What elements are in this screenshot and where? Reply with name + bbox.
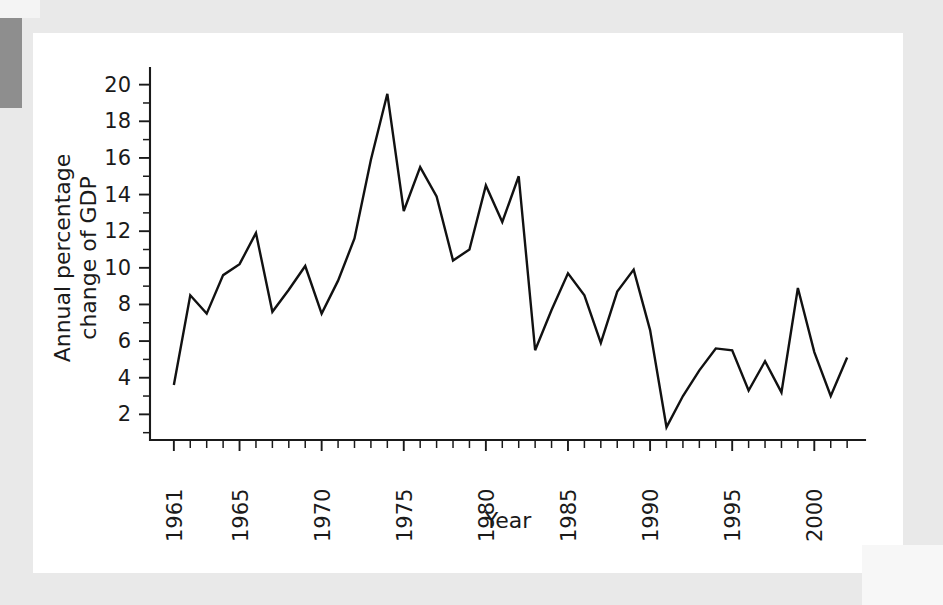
x-tick-label: 1961 [163, 489, 187, 542]
axis-spine [150, 68, 865, 440]
x-axis-ticks [174, 440, 847, 451]
y-tick-label: 8 [118, 292, 131, 316]
y-tick-label: 10 [104, 256, 131, 280]
y-tick-label: 16 [104, 146, 131, 170]
x-tick-label: 1985 [557, 489, 581, 542]
chart-axes [150, 68, 865, 440]
y-tick-label: 4 [118, 366, 131, 390]
y-tick-label: 20 [104, 73, 131, 97]
x-tick-label: 2000 [803, 489, 827, 542]
y-tick-label: 12 [104, 219, 131, 243]
x-tick-label: 1970 [311, 489, 335, 542]
gdp-change-line [174, 94, 847, 427]
y-tick-label: 6 [118, 329, 131, 353]
y-axis-title-line1: Annual percentage [50, 154, 75, 363]
x-tick-label: 1975 [393, 489, 417, 542]
figure-page: 2468101214161820 19611965197019751980198… [0, 0, 943, 605]
y-axis-tick-labels: 2468101214161820 [104, 73, 131, 427]
x-axis-title: Year [484, 508, 533, 533]
x-tick-label: 1995 [721, 489, 745, 542]
y-axis-ticks [139, 85, 150, 433]
line-chart: 2468101214161820 19611965197019751980198… [0, 0, 943, 605]
y-tick-label: 14 [104, 183, 131, 207]
y-tick-label: 2 [118, 402, 131, 426]
x-tick-label: 1990 [639, 489, 663, 542]
x-tick-label: 1965 [229, 489, 253, 542]
y-tick-label: 18 [104, 109, 131, 133]
y-axis-title-line2: change of GDP [76, 176, 101, 339]
